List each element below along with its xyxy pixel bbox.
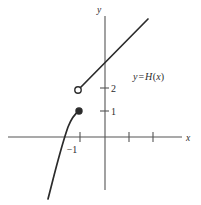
x-tick-label-minus-1: −1 <box>67 144 78 155</box>
y-axis-label: y <box>96 5 102 15</box>
function-label-equals: = <box>138 71 144 82</box>
function-graph-figure: y x 1 2 −1 y=H(x) <box>0 0 201 205</box>
open-endpoint-marker <box>75 87 81 93</box>
function-label-y: y <box>132 71 138 82</box>
y-tick-label-1: 1 <box>111 106 116 117</box>
closed-endpoint-marker <box>76 108 82 114</box>
function-label: y=H(x) <box>132 71 164 83</box>
function-label-close-paren: ) <box>161 71 164 83</box>
x-axis-label: x <box>185 133 191 143</box>
function-label-name: H <box>144 71 153 82</box>
graph-canvas: y x 1 2 −1 y=H(x) <box>0 0 201 205</box>
left-branch-curve <box>48 111 79 199</box>
y-tick-label-2: 2 <box>111 83 116 94</box>
